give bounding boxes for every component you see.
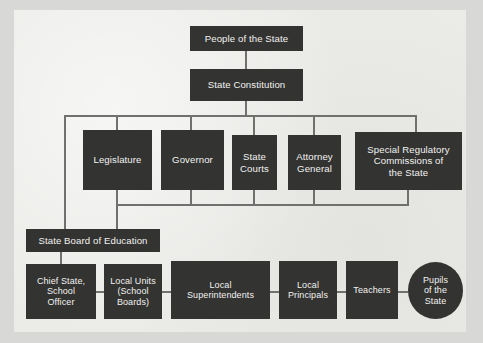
- node-teachers[interactable]: Teachers: [346, 261, 398, 319]
- node-label: Teachers: [353, 285, 390, 295]
- node-label-line2: School: [47, 286, 75, 296]
- node-pupils-of-the-state[interactable]: Pupils of the State: [408, 262, 463, 319]
- node-chief-state-school-officer[interactable]: Chief State, School Officer: [26, 264, 96, 319]
- edge-bus-commissions: [415, 115, 417, 132]
- edge-bus2-stateboard: [116, 204, 118, 229]
- node-label-line1: Local: [209, 280, 231, 290]
- node-label-line2: Commissions of: [374, 155, 444, 166]
- node-label-line3: Boards): [117, 297, 149, 307]
- node-governor[interactable]: Governor: [161, 130, 224, 190]
- edge-constitution-bus: [245, 101, 247, 116]
- edge-people-constitution: [245, 51, 247, 69]
- node-label-line2: (School: [117, 286, 148, 296]
- node-legislature[interactable]: Legislature: [83, 130, 152, 190]
- edge-bus-governor: [190, 115, 192, 130]
- node-label-line3: Officer: [47, 297, 74, 307]
- node-label-line1: Local Units: [110, 276, 156, 286]
- node-special-regulatory-commissions[interactable]: Special Regulatory Commissions of the St…: [355, 132, 462, 190]
- node-local-principals[interactable]: Local Principals: [279, 261, 337, 319]
- edge-teachers-pupils: [398, 291, 408, 293]
- edge-bus-courts: [253, 115, 255, 135]
- bus-lower: [116, 204, 409, 206]
- node-label: Legislature: [93, 154, 141, 165]
- node-state-constitution[interactable]: State Constitution: [190, 69, 303, 101]
- node-label-line2: Superintendents: [187, 290, 254, 300]
- node-label-line1: Special Regulatory: [367, 144, 449, 155]
- node-label-line1: Local: [297, 280, 319, 290]
- node-people-of-the-state[interactable]: People of the State: [190, 26, 303, 51]
- node-label-line1: State: [243, 151, 266, 162]
- node-label-line1: Pupils: [423, 275, 448, 285]
- node-label-line1: Attorney: [296, 151, 333, 162]
- node-label-line3: the State: [389, 167, 428, 178]
- node-local-superintendents[interactable]: Local Superintendents: [171, 261, 270, 319]
- node-state-courts[interactable]: State Courts: [232, 135, 277, 190]
- edge-principals-teachers: [337, 291, 346, 293]
- node-state-board-of-education[interactable]: State Board of Education: [26, 229, 160, 252]
- edge-superintendents-principals: [270, 291, 279, 293]
- node-label-line1: Chief State,: [37, 276, 85, 286]
- node-label-line2: Courts: [240, 163, 269, 174]
- edge-localunits-superintendents: [162, 291, 171, 293]
- node-label-line2: General: [297, 163, 332, 174]
- edge-bus-attorney: [313, 115, 315, 135]
- node-label: Governor: [172, 154, 213, 165]
- edge-chief-localunits: [96, 291, 104, 293]
- edge-spine-left: [64, 115, 66, 229]
- node-label: State Board of Education: [38, 235, 147, 246]
- diagram-canvas: People of the State State Constitution L…: [0, 0, 483, 343]
- node-label-line3: State: [425, 296, 447, 306]
- node-local-units-school-boards[interactable]: Local Units (School Boards): [104, 264, 162, 319]
- node-attorney-general[interactable]: Attorney General: [288, 135, 341, 190]
- node-label-line2: Principals: [288, 290, 328, 300]
- node-label: People of the State: [205, 33, 289, 44]
- edge-stateboard-chief: [60, 252, 62, 264]
- node-label: State Constitution: [208, 79, 286, 90]
- edge-bus-legislature: [116, 115, 118, 130]
- node-label-line2: of the: [424, 285, 447, 295]
